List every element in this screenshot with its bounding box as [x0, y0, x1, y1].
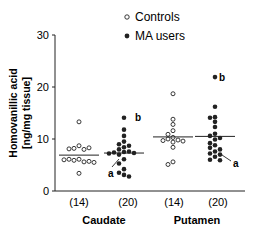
control-point [161, 139, 165, 143]
ma-user-point [213, 125, 218, 130]
ma-user-point [122, 173, 127, 178]
n-putamen-controls: (14) [164, 196, 184, 208]
ma-user-point [117, 171, 122, 176]
ma-user-point [213, 149, 218, 154]
control-point [77, 171, 81, 175]
annotation-a-caudate: a [108, 168, 114, 179]
ma-user-point [117, 142, 122, 147]
ma-user-point [208, 134, 213, 139]
filled-circle-icon [125, 34, 130, 39]
control-point [62, 158, 66, 162]
control-point [166, 137, 170, 141]
ylabel-line2: [ng/mg tissue] [20, 77, 32, 149]
control-point [67, 147, 71, 151]
control-point [176, 138, 180, 142]
ma-user-point [122, 139, 127, 144]
open-circle-icon [125, 15, 129, 19]
region-putamen: Putamen [174, 214, 221, 226]
ma-user-point [213, 137, 218, 142]
control-point [72, 146, 76, 150]
legend-controls: Controls [135, 10, 180, 24]
control-point [171, 145, 175, 149]
control-point [166, 132, 170, 136]
control-point [171, 92, 175, 96]
ma-user-point [208, 141, 213, 146]
annotation-b-putamen: b [219, 72, 225, 83]
control-point [171, 122, 175, 126]
ma-user-point [208, 115, 213, 120]
ma-user-point [213, 120, 218, 125]
ma-user-point [122, 127, 127, 132]
ma-user-point [208, 158, 213, 163]
region-caudate: Caudate [82, 214, 125, 226]
control-point [87, 146, 91, 150]
ma-user-point [213, 154, 218, 159]
control-point [166, 162, 170, 166]
n-putamen-ma: (20) [208, 196, 228, 208]
ytick-10: 10 [37, 133, 49, 145]
control-point [72, 158, 76, 162]
control-point [82, 147, 86, 151]
control-point [77, 144, 81, 148]
control-point [171, 129, 175, 133]
control-point [92, 160, 96, 164]
ma-user-point [122, 167, 127, 172]
control-point [82, 160, 86, 164]
ma-user-point [218, 147, 223, 152]
ma-user-point [122, 150, 127, 155]
data-points [59, 75, 235, 179]
ma-user-point [122, 134, 127, 139]
control-point [77, 157, 81, 161]
ma-user-point [122, 115, 127, 120]
ma-user-point [208, 151, 213, 156]
ma-user-point [112, 150, 117, 155]
ma-user-point [218, 158, 223, 163]
control-point [87, 159, 91, 163]
ma-user-point [213, 143, 218, 148]
control-point [67, 157, 71, 161]
ma-user-point [213, 104, 218, 109]
annotation-a-putamen: a [233, 158, 239, 169]
ma-user-point [213, 75, 218, 80]
legend-ma-users: MA users [135, 29, 185, 43]
ma-user-point [213, 115, 218, 120]
control-point [181, 139, 185, 143]
y-axis: 30 20 10 0 Homovanillic acid [ng/mg tiss… [7, 29, 55, 197]
n-caudate-controls: (14) [69, 196, 89, 208]
ma-user-point [117, 161, 122, 166]
ma-user-point [218, 152, 223, 157]
ytick-30: 30 [37, 29, 49, 41]
ma-user-point [107, 151, 112, 156]
legend: Controls MA users [125, 10, 185, 43]
control-point [171, 117, 175, 121]
ytick-0: 0 [43, 185, 49, 197]
ma-user-point [122, 157, 127, 162]
n-caudate-ma: (20) [118, 196, 138, 208]
control-point [171, 135, 175, 139]
ma-user-point [127, 143, 132, 148]
ma-user-point [213, 132, 218, 137]
ylabel-line1: Homovanillic acid [7, 68, 19, 157]
ma-user-point [208, 146, 213, 151]
ma-user-point [117, 147, 122, 152]
control-point [77, 120, 81, 124]
scatter-chart: Controls MA users 30 20 10 0 Homovanilli… [0, 0, 253, 234]
control-point [171, 140, 175, 144]
ytick-20: 20 [37, 81, 49, 93]
ma-user-point [122, 145, 127, 150]
ma-user-point [127, 174, 132, 179]
control-point [171, 160, 175, 164]
annotation-b-caudate: b [135, 112, 141, 123]
